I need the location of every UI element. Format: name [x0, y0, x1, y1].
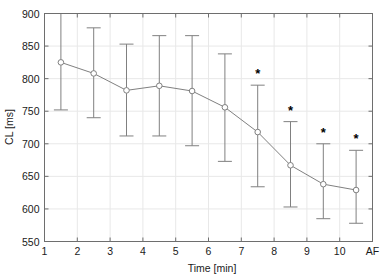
y-tick-label: 550: [22, 236, 40, 248]
x-tick-label: 9: [304, 245, 310, 257]
x-tick-label: 6: [206, 245, 212, 257]
x-tick-label: 7: [238, 245, 244, 257]
y-tick-label: 800: [22, 73, 40, 85]
chart-figure: **** 12345678910AF 550600650700750800850…: [0, 0, 390, 277]
x-tick-label: 4: [140, 245, 146, 257]
x-axis-title: Time [min]: [188, 262, 237, 274]
y-axis-title: CL [ms]: [3, 109, 15, 145]
y-tick-label: 600: [22, 203, 40, 215]
x-tick-label: 2: [74, 245, 80, 257]
y-tick-label: 650: [22, 170, 40, 182]
x-tick-label: 5: [173, 245, 179, 257]
y-tick-label: 900: [22, 8, 40, 20]
x-tick-label: 3: [107, 245, 113, 257]
x-tick-label: 10: [334, 245, 346, 257]
cycle-length-over-time-chart: **** 12345678910AF 550600650700750800850…: [0, 0, 390, 277]
y-tick-label: 750: [22, 105, 40, 117]
y-tick-label: 850: [22, 40, 40, 52]
chart-background: [0, 0, 390, 277]
x-tick-label: 8: [271, 245, 277, 257]
y-tick-label: 700: [22, 138, 40, 150]
x-tick-label: 1: [42, 245, 48, 257]
x-tick-label: AF: [366, 245, 379, 257]
